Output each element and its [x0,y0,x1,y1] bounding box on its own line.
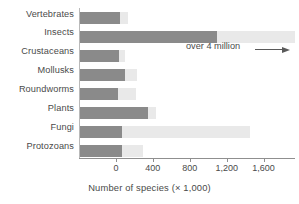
category-label-roundworms: Roundworms [0,84,74,94]
x-tick [190,158,191,162]
x-tick-label: 400 [145,163,160,173]
x-tick [153,158,154,162]
x-tick [116,158,117,162]
x-tick [227,158,228,162]
x-axis-line [79,158,295,159]
x-tick-label: 1,200 [215,163,238,173]
y-axis-line [79,8,80,158]
bar-value [79,145,122,157]
bar-value [79,88,118,100]
arrow-right-icon [255,46,291,53]
category-label-vertebrates: Vertebrates [0,9,74,19]
category-label-crustaceans: Crustaceans [0,46,74,56]
x-tick-label: 0 [113,163,118,173]
bar-value [79,12,120,24]
x-tick [264,158,265,162]
category-label-insects: Insects [0,27,74,37]
plot-area [79,8,295,158]
category-label-mollusks: Mollusks [0,65,74,75]
category-label-plants: Plants [0,103,74,113]
annotation-over-4-million: over 4 million [186,41,240,51]
bar-value [79,107,148,119]
x-tick-label: 1,600 [252,163,275,173]
x-tick-label: 800 [182,163,197,173]
bar-value [79,126,122,138]
category-label-fungi: Fungi [0,122,74,132]
species-bar-chart: Vertebrates Insects Crustaceans Mollusks… [0,0,299,204]
bar-value [79,50,119,62]
bar-value [79,69,125,81]
category-label-column: Vertebrates Insects Crustaceans Mollusks… [0,0,74,160]
category-label-protozoans: Protozoans [0,141,74,151]
x-axis-title: Number of species (× 1,000) [0,182,299,193]
